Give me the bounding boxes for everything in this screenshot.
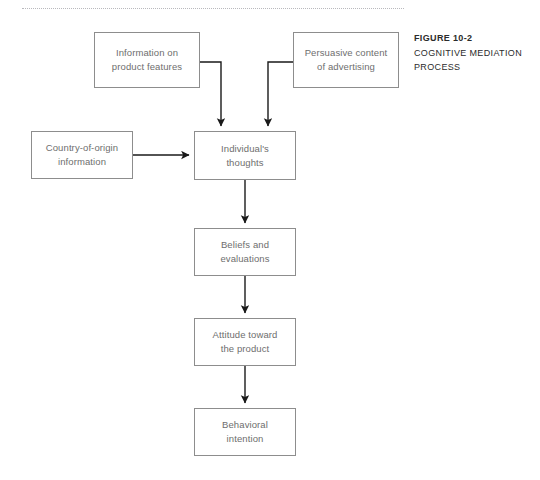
node-beliefs-and-evaluations: Beliefs and evaluations (194, 228, 296, 276)
node-label: Persuasive content of advertising (305, 46, 388, 74)
figure-caption: FIGURE 10-2 COGNITIVE MEDIATION PROCESS (414, 31, 534, 75)
node-label: Behavioral intention (222, 418, 268, 446)
figure-canvas: Information on product features Persuasi… (0, 0, 540, 480)
figure-title-line-1: COGNITIVE MEDIATION (414, 46, 534, 61)
node-behavioral-intention: Behavioral intention (194, 408, 296, 456)
node-attitude-toward-the-product: Attitude toward the product (194, 318, 296, 366)
node-label: Individual's thoughts (221, 142, 269, 170)
node-country-of-origin-information: Country-of-origin information (31, 131, 133, 179)
edge-persuasive-to-thoughts (268, 62, 293, 126)
node-persuasive-content-of-advertising: Persuasive content of advertising (293, 32, 399, 88)
node-individuals-thoughts: Individual's thoughts (194, 131, 296, 180)
node-label: Country-of-origin information (46, 141, 118, 169)
node-label: Beliefs and evaluations (220, 238, 269, 266)
figure-number: FIGURE 10-2 (414, 31, 534, 46)
figure-title-line-2: PROCESS (414, 60, 534, 75)
edge-info-product-to-thoughts (200, 62, 221, 126)
node-label: Information on product features (112, 46, 182, 74)
node-information-on-product-features: Information on product features (94, 32, 200, 88)
node-label: Attitude toward the product (213, 328, 278, 356)
dotted-divider (22, 8, 404, 9)
